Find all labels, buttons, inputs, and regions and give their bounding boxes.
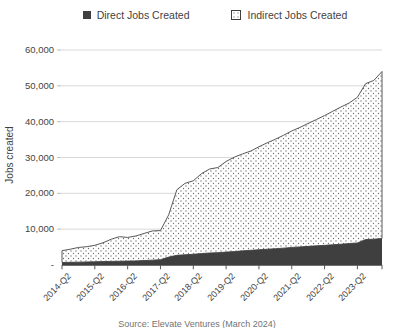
source-caption: Source: Elevate Ventures (March 2024) [0, 319, 394, 328]
indirect-jobs-area [62, 72, 382, 263]
